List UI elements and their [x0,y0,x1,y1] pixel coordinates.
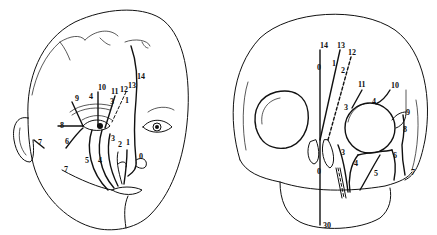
ear-inner [19,128,26,155]
label-2: 2 [118,140,122,149]
label-30: 30 [323,221,331,230]
label-8: 8 [60,121,64,130]
label-8: 8 [403,125,407,134]
face-labels: 14 13 12 11 10 9 4 3 1 8 6 7 7 3 2 1 5 4… [38,72,145,174]
label-3-lower: 3 [111,134,115,143]
label-12: 12 [120,85,128,94]
right-brow [148,107,174,112]
skull-illustration: 14 13 12 0 1 2 11 10 4 3 9 8 3 4 6 5 7 0… [220,0,437,235]
skull-diagram: 14 13 12 0 1 2 11 10 4 3 9 8 3 4 6 5 7 0… [220,0,437,235]
chin-line [125,196,128,228]
cleft-line-12 [112,92,126,122]
label-3-upper: 3 [110,97,114,106]
face-illustration: 14 13 12 11 10 9 4 3 1 8 6 7 7 3 2 1 5 4… [0,0,220,235]
left-orbit [255,91,308,148]
label-3-upper: 3 [344,103,348,112]
label-7: 7 [411,168,415,177]
label-13: 13 [337,41,345,50]
left-orbit-inner [262,98,280,124]
temporal-line-left [243,82,248,150]
label-7-cheek: 7 [64,165,68,174]
cranium-outline [233,14,427,180]
label-4-upper: 4 [89,92,93,101]
right-pupil [155,125,159,129]
face-diagram: 14 13 12 11 10 9 4 3 1 8 6 7 7 3 2 1 5 4… [0,0,220,235]
label-14: 14 [320,41,328,50]
label-1: 1 [332,59,336,68]
label-6: 6 [393,151,397,160]
label-0-lower: 0 [317,167,321,176]
label-11: 11 [111,87,119,96]
label-9: 9 [406,108,410,117]
label-9: 9 [75,94,79,103]
cleft-line-14-0 [128,46,137,176]
label-1-upper: 1 [125,96,129,105]
label-3-lower: 3 [341,148,345,157]
right-orbit [345,103,395,153]
label-4-lower: 4 [354,159,358,168]
label-12: 12 [348,48,356,57]
label-4-lower: 4 [98,156,102,165]
nasal-bone-right [322,140,333,168]
label-5: 5 [374,169,378,178]
nasal-bone-left [308,140,319,164]
mouth [112,187,142,195]
cleft-line-13-1 [320,50,340,140]
label-11: 11 [358,80,366,89]
label-14: 14 [137,72,145,81]
label-5: 5 [85,156,89,165]
nostril-left [118,162,126,167]
label-4-upper: 4 [372,97,376,106]
label-10: 10 [391,81,399,90]
label-2: 2 [341,66,345,75]
label-0: 0 [139,152,143,161]
skull-labels: 14 13 12 0 1 2 11 10 4 3 9 8 3 4 6 5 7 0… [317,41,415,230]
cleft-line-1 [124,150,127,184]
cleft-line-10 [376,90,390,104]
label-10: 10 [98,83,106,92]
temporal-line-right [412,100,418,170]
label-13: 13 [128,81,136,90]
label-0-upper: 0 [317,63,321,72]
label-6: 6 [65,137,69,146]
cleft-line-12-2 [328,57,351,140]
ear [14,118,34,162]
label-1-lower: 1 [126,138,130,147]
label-7-ear: 7 [38,138,42,147]
mandible-outline [280,182,391,228]
cleft-line-2 [117,152,122,184]
